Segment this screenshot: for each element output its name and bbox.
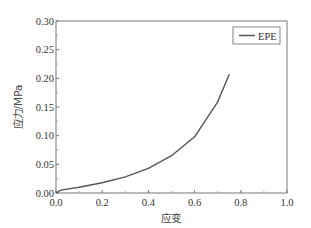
y-tick-label: 0.25: [36, 44, 54, 55]
x-axis-label: 应变: [161, 212, 182, 224]
x-tick-label: 0.6: [188, 197, 201, 208]
y-axis-label: 应力/MPa: [12, 85, 24, 130]
plot-area: [56, 21, 287, 193]
series-line-epe: [56, 74, 229, 193]
x-tick-label: 0.8: [234, 197, 247, 208]
legend: EPE: [233, 27, 280, 44]
y-tick-label: 0.30: [36, 16, 54, 27]
x-tick-label: 1.0: [280, 197, 293, 208]
y-axis: 0.000.050.100.150.200.250.30: [36, 16, 59, 199]
plot-border: [56, 21, 287, 193]
x-tick-label: 0.2: [96, 197, 109, 208]
y-tick-label: 0.15: [36, 102, 54, 113]
y-tick-label: 0.10: [36, 130, 54, 141]
y-tick-label: 0.05: [36, 159, 54, 170]
x-tick-label: 0.4: [142, 197, 156, 208]
y-tick-label: 0.20: [36, 73, 54, 84]
legend-label: EPE: [258, 31, 277, 42]
data-series: [56, 74, 229, 193]
stress-strain-chart: 0.000.050.100.150.200.250.30 0.00.20.40.…: [0, 0, 311, 228]
x-tick-label: 0.0: [49, 197, 62, 208]
